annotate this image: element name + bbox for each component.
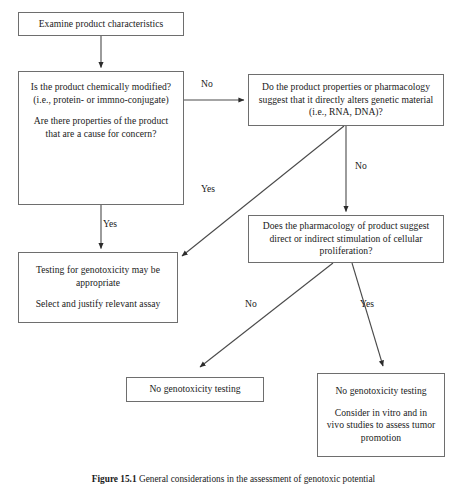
node-chemically-modified-question-2: Are there properties of the product that… — [27, 115, 175, 140]
figure-caption-number: Figure 15.1 — [92, 474, 137, 484]
node-cellular-proliferation: Does the pharmacology of product suggest… — [248, 215, 444, 263]
figure-flowchart: Examine product characteristics Is the p… — [0, 0, 467, 484]
node-no-genotoxicity-testing-right-detail: Consider in vitro and in vivo studies to… — [326, 407, 436, 445]
figure-caption: Figure 15.1 General considerations in th… — [0, 474, 467, 484]
edge-label-genetic-to-pharmacology: No — [355, 161, 367, 171]
node-testing-statement-2: Select and justify relevant assay — [27, 298, 169, 311]
figure-caption-text: General considerations in the assessment… — [139, 474, 375, 484]
connector-pharmacology-to-no-right — [352, 263, 383, 366]
node-no-genotoxicity-testing-right: No genotoxicity testing Consider in vitr… — [317, 373, 445, 457]
node-alters-genetic-material: Do the product properties or pharmacolog… — [248, 74, 444, 126]
edge-label-pharmacology-to-no-right: Yes — [360, 299, 374, 309]
node-no-genotoxicity-testing-right-title: No genotoxicity testing — [326, 385, 436, 398]
edge-label-pharmacology-to-no-left: No — [245, 299, 257, 309]
node-chemically-modified: Is the product chemically modified? (i.e… — [18, 71, 184, 205]
connector-pharmacology-to-no-left — [200, 263, 333, 367]
node-no-genotoxicity-testing-left: No genotoxicity testing — [126, 377, 264, 402]
edge-label-chemical-to-genetic: No — [201, 79, 213, 89]
node-testing-may-be-appropriate: Testing for genotoxicity may be appropri… — [18, 252, 178, 323]
edge-label-chemical-to-testing: Yes — [103, 219, 117, 229]
node-examine-product-characteristics: Examine product characteristics — [18, 12, 184, 36]
node-testing-statement-1: Testing for genotoxicity may be appropri… — [27, 264, 169, 289]
node-no-genotoxicity-testing-left-text: No genotoxicity testing — [131, 383, 259, 396]
node-examine-text: Examine product characteristics — [23, 18, 179, 31]
edge-label-genetic-to-testing: Yes — [201, 184, 215, 194]
node-chemically-modified-question-1: Is the product chemically modified? (i.e… — [27, 81, 175, 106]
node-cellular-proliferation-text: Does the pharmacology of product suggest… — [255, 220, 437, 258]
node-alters-genetic-material-text: Do the product properties or pharmacolog… — [255, 81, 437, 119]
